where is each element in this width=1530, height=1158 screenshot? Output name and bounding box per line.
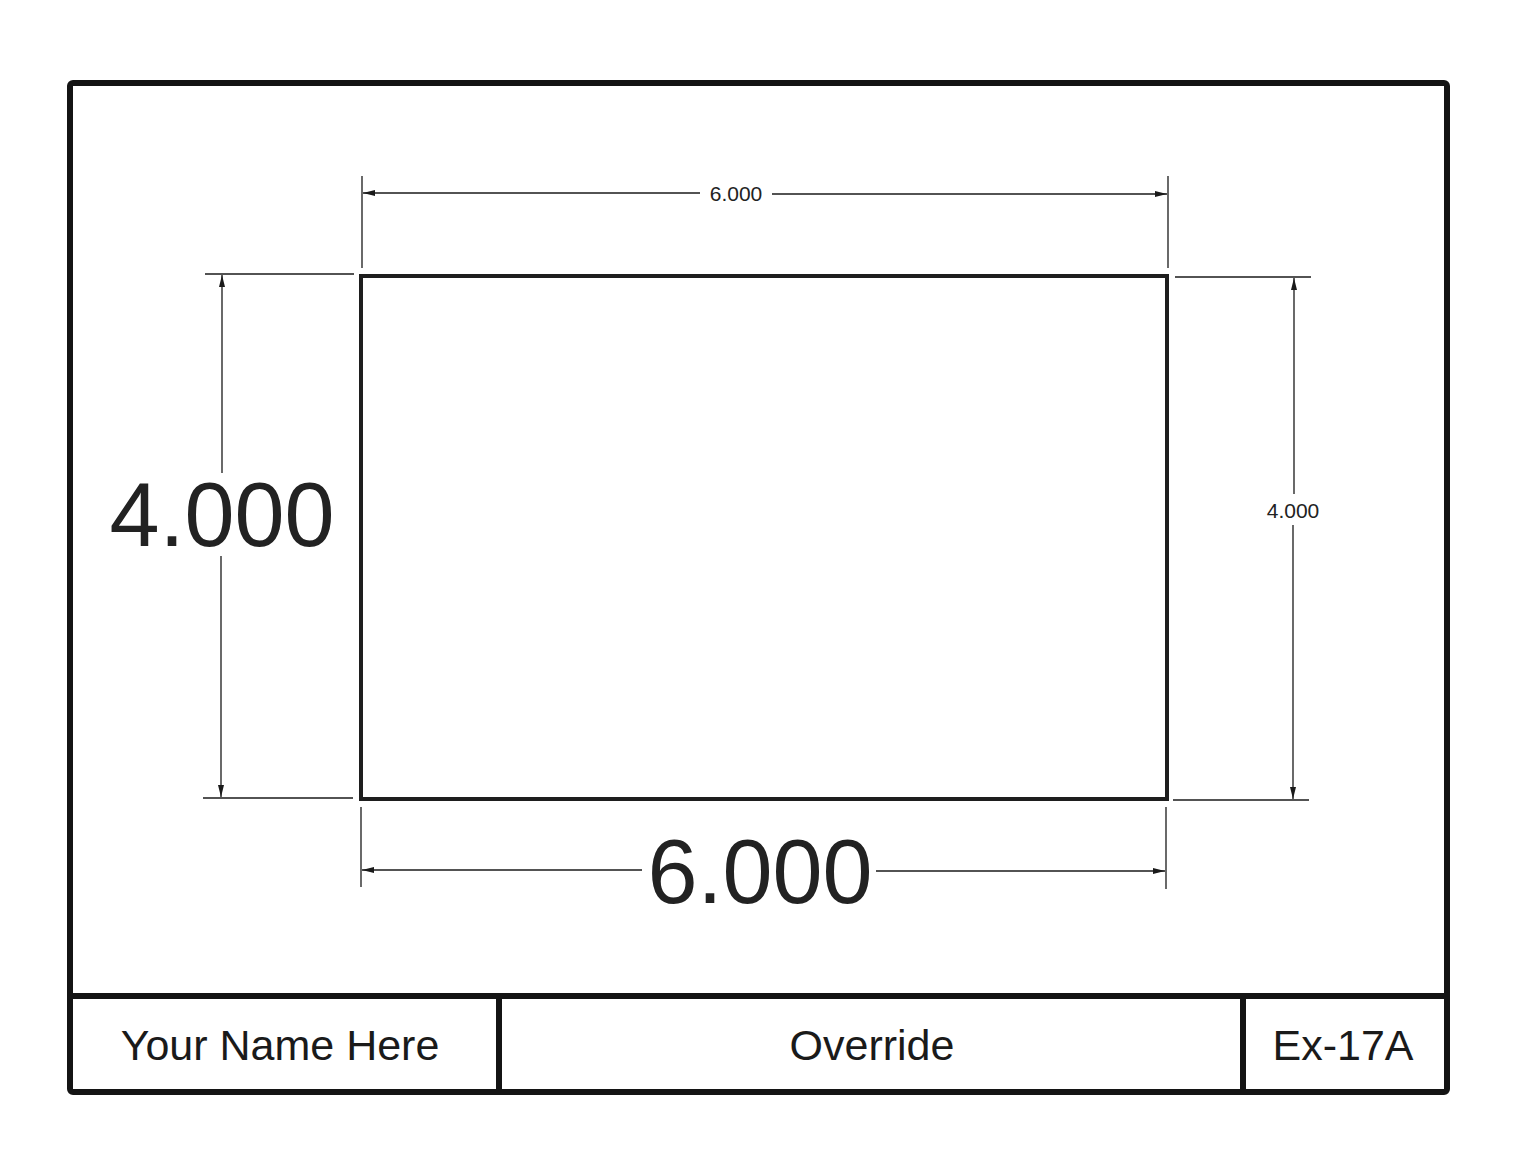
dimension-bottom-width[interactable]: 6.000 [361, 807, 1166, 922]
dimension-top-width[interactable]: 6.000 [362, 176, 1168, 268]
part-rectangle[interactable] [361, 276, 1167, 799]
dimension-text-left-height: 4.000 [109, 465, 334, 565]
title-block-title[interactable]: Override [790, 1021, 955, 1069]
dimension-text-bottom-width: 6.000 [647, 822, 872, 922]
sheet-border [70, 83, 1447, 1092]
title-block: Your Name Here Override Ex-17A [70, 996, 1447, 1092]
dimension-text-top-width: 6.000 [710, 182, 763, 205]
dimension-text-right-height: 4.000 [1267, 499, 1320, 522]
drawing-sheet: 6.000 6.000 4.000 4.000 Your Name Here O… [0, 0, 1530, 1158]
title-block-drawing-number[interactable]: Ex-17A [1272, 1021, 1413, 1069]
dimension-left-height[interactable]: 4.000 [109, 274, 354, 798]
dimension-right-height[interactable]: 4.000 [1173, 277, 1319, 800]
title-block-name[interactable]: Your Name Here [121, 1021, 440, 1069]
